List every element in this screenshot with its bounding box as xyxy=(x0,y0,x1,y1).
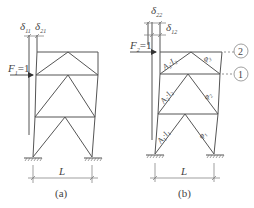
force-f2-label: F2=1 xyxy=(129,39,151,53)
angle-phi2-label: φ2 xyxy=(202,90,214,102)
caption-b: (b) xyxy=(178,187,191,200)
level-1-label: 1 xyxy=(238,69,243,80)
level-2-label: 2 xyxy=(238,46,243,57)
frame-a xyxy=(10,34,102,183)
delta-22-label: δ22 xyxy=(151,4,162,18)
braced-frame-diagram: δ11 δ21 F1=1 L (a) xyxy=(0,0,254,208)
angle-phi1-label: φ1 xyxy=(197,129,209,141)
member-label-top: A2·I2 xyxy=(160,55,179,73)
force-f1-label: F1=1 xyxy=(7,62,29,76)
member-label-bottom: A1·I1 xyxy=(155,128,172,146)
caption-a: (a) xyxy=(55,187,68,200)
delta-11-label: δ11 xyxy=(20,20,31,34)
delta-21-label: δ21 xyxy=(35,20,46,34)
member-label-middle: A2·I2 xyxy=(158,88,176,107)
delta-12-label: δ12 xyxy=(166,21,177,35)
angle-phi3-label: φ3 xyxy=(202,52,213,64)
span-label-b: L xyxy=(180,165,187,177)
span-label-a: L xyxy=(58,165,65,177)
